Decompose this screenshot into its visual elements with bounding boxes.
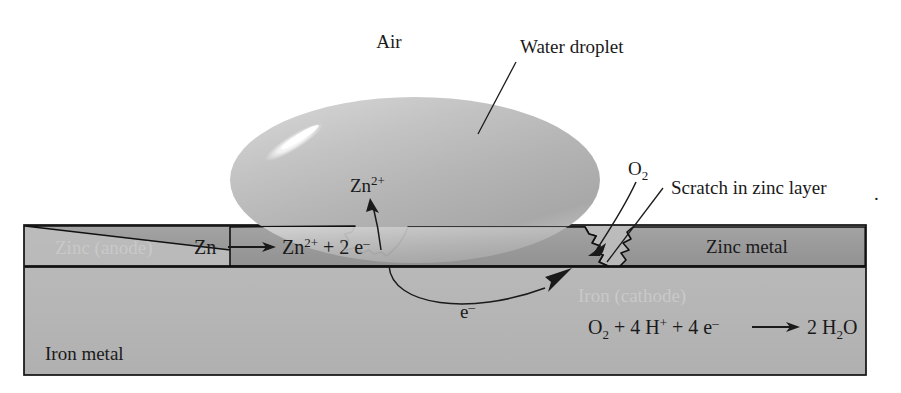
cathode-water-count: 2 bbox=[807, 316, 817, 338]
cathode-plus-1: + bbox=[614, 316, 625, 338]
cathode-o2-symbol: O bbox=[588, 316, 602, 338]
anode-electron-charge: – bbox=[362, 235, 370, 250]
label-iron-metal: Iron metal bbox=[45, 343, 124, 364]
anode-electron-count: 2 bbox=[339, 236, 349, 258]
svg-text:Zn: Zn bbox=[194, 236, 216, 258]
label-o2-symbol: O bbox=[628, 158, 642, 179]
label-zn-charge: 2+ bbox=[371, 173, 385, 188]
diagram-canvas: Air Water droplet O2 Scratch in zinc lay… bbox=[0, 0, 901, 393]
label-electron-charge: – bbox=[467, 299, 475, 314]
label-zinc-metal: Zinc metal bbox=[706, 236, 788, 257]
cathode-e-charge: – bbox=[711, 315, 719, 330]
cathode-h-symbol: H bbox=[645, 316, 659, 338]
label-scratch: Scratch in zinc layer bbox=[671, 177, 827, 198]
cathode-h-count: 4 bbox=[630, 316, 640, 338]
label-o2-subscript: 2 bbox=[642, 168, 649, 183]
label-iron-cathode: Iron (cathode) bbox=[578, 285, 686, 307]
stray-dot-mark: . bbox=[874, 183, 879, 204]
cathode-water-oxygen: O bbox=[843, 316, 857, 338]
cathode-water-symbol: H bbox=[822, 316, 836, 338]
corrosion-diagram-figure: Air Water droplet O2 Scratch in zinc lay… bbox=[0, 0, 901, 393]
label-electron-symbol: e bbox=[460, 301, 468, 322]
label-air: Air bbox=[376, 31, 402, 52]
anode-product-charge: 2+ bbox=[304, 235, 318, 250]
cathode-e-symbol: e bbox=[703, 316, 712, 338]
svg-text:O2: O2 bbox=[628, 158, 648, 183]
anode-electron-symbol: e bbox=[354, 236, 363, 258]
label-zn-symbol: Zn bbox=[350, 175, 372, 196]
anode-plus: + bbox=[323, 236, 334, 258]
cathode-e-count: 4 bbox=[688, 316, 698, 338]
anode-product-symbol: Zn bbox=[282, 236, 304, 258]
label-zinc-anode: Zinc (anode) bbox=[55, 237, 153, 259]
anode-reactant: Zn bbox=[194, 236, 216, 258]
cathode-h-charge: + bbox=[660, 315, 667, 330]
label-water-droplet: Water droplet bbox=[520, 36, 624, 57]
cathode-plus-2: + bbox=[672, 316, 683, 338]
oxygen-label-group: O2 bbox=[628, 158, 648, 183]
svg-text:Zn2+ + 2 e–: Zn2+ + 2 e– bbox=[282, 235, 370, 258]
